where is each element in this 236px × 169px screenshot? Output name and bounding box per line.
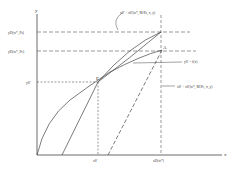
point-e-label: E bbox=[96, 76, 99, 81]
y-axis-label: y bbox=[35, 8, 38, 13]
y-label-mid: yD(w*, Pc) bbox=[8, 50, 25, 55]
x-label-left: xS' bbox=[93, 159, 98, 163]
curve-label-top: xS' + xS'(w*, M/Ps, π, y) bbox=[120, 11, 156, 16]
pointer-mid bbox=[133, 62, 182, 63]
point-a-label: A bbox=[163, 45, 167, 50]
dashed-supply-curve bbox=[108, 50, 162, 155]
curve-label-mid: yS' = f(x) bbox=[184, 60, 198, 64]
economics-diagram: A E y x yD(w*, Ps) yD(w*, Pc) yS' xS' xD… bbox=[0, 0, 236, 169]
upper-curve bbox=[98, 32, 161, 82]
y-label-top: yD(w*, Ps) bbox=[8, 31, 25, 36]
production-curve bbox=[37, 50, 162, 155]
curve-label-dashed: xS' + xS'(w*, M/Pc, π, y) bbox=[177, 85, 213, 90]
y-label-low: yS' bbox=[26, 81, 31, 85]
x-axis-label: x bbox=[224, 152, 227, 157]
x-label-right: xD(w*) bbox=[153, 159, 165, 163]
